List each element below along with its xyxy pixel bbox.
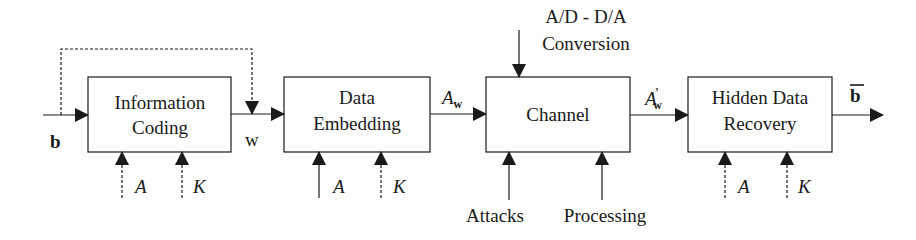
ic-label-a: A	[133, 176, 147, 197]
watermarking-block-diagram: Information Coding Data Embedding Channe…	[0, 0, 916, 240]
ic-label-k: K	[192, 176, 207, 197]
signal-aw: Aw	[440, 87, 463, 111]
de-label-k: K	[392, 176, 407, 197]
label-hidden-data: Hidden Data	[712, 87, 809, 108]
label-processing: Processing	[564, 205, 647, 226]
signal-b: b	[50, 131, 61, 152]
signal-w: w	[245, 129, 259, 150]
label-channel: Channel	[526, 104, 589, 125]
label-information: Information	[115, 92, 206, 113]
hdr-label-a: A	[736, 176, 750, 197]
label-recovery: Recovery	[724, 113, 797, 134]
signal-b-bar: b	[850, 85, 861, 106]
label-embedding: Embedding	[313, 113, 401, 134]
label-conversion: Conversion	[542, 33, 630, 54]
label-attacks: Attacks	[466, 205, 524, 226]
de-label-a: A	[331, 176, 345, 197]
label-data: Data	[339, 87, 375, 108]
hdr-label-k: K	[797, 176, 812, 197]
block-information-coding	[88, 77, 231, 152]
signal-aw-prime: A’w	[643, 86, 662, 112]
label-ad-da: A/D - D/A	[545, 6, 627, 27]
label-coding: Coding	[132, 117, 188, 138]
